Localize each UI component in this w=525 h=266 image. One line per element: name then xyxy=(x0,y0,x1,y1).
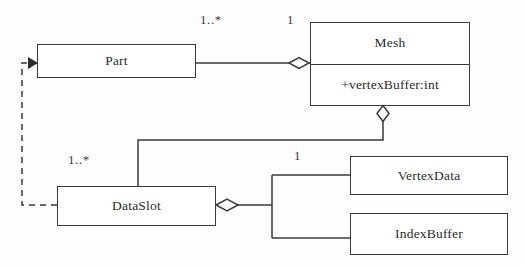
aggregation-diamond-dataslot xyxy=(216,199,238,211)
multiplicity-mesh-dataslot-source: 1..* xyxy=(68,153,90,166)
multiplicity-part-mesh-source: 1..* xyxy=(200,13,222,26)
edge-dataslot-part-dependency xyxy=(22,63,57,205)
class-attribute-mesh-vertexbuffer: +vertexBuffer:int xyxy=(311,64,469,105)
class-box-mesh[interactable]: Mesh +vertexBuffer:int xyxy=(310,22,470,106)
class-name-mesh: Mesh xyxy=(311,23,469,64)
class-box-indexbuffer[interactable]: IndexBuffer xyxy=(350,213,508,255)
class-box-dataslot[interactable]: DataSlot xyxy=(57,186,216,226)
uml-class-diagram: Part Mesh +vertexBuffer:int DataSlot Ver… xyxy=(0,0,525,266)
class-name-dataslot: DataSlot xyxy=(58,187,215,225)
class-box-vertexdata[interactable]: VertexData xyxy=(350,156,508,195)
edge-mesh-dataslot xyxy=(138,122,383,187)
class-name-indexbuffer: IndexBuffer xyxy=(351,214,507,254)
class-name-part: Part xyxy=(38,45,195,77)
multiplicity-dataslot-data-target: 1 xyxy=(294,149,301,162)
class-box-part[interactable]: Part xyxy=(37,44,196,78)
class-name-vertexdata: VertexData xyxy=(351,157,507,194)
multiplicity-part-mesh-target: 1 xyxy=(287,13,294,26)
aggregation-diamond-mesh xyxy=(289,58,309,69)
aggregation-diamond-mesh-bottom xyxy=(377,106,389,122)
